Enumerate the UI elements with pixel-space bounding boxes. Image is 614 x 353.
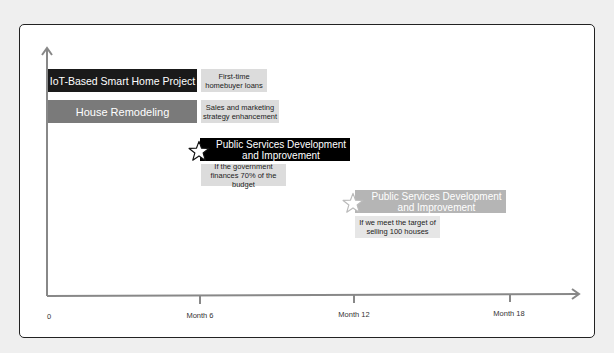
tick-label-month-18: Month 18 — [493, 309, 524, 318]
star-icon — [188, 140, 210, 162]
note-selling-100-houses: If we meet the target of selling 100 hou… — [355, 216, 440, 238]
note-sales-marketing: Sales and marketing strategy enhancement — [201, 100, 279, 123]
tick-month-18 — [509, 294, 511, 302]
bar-iot-smart-home: IoT-Based Smart Home Project — [48, 69, 197, 92]
bar-house-remodeling: House Remodeling — [48, 100, 197, 123]
tick-label-month-6: Month 6 — [186, 311, 213, 320]
milestone-public-services-month-12: Public Services Development and Improvem… — [355, 190, 506, 213]
milestone-public-services-month-6: Public Services Development and Improvem… — [200, 138, 350, 161]
timeline-axes — [0, 0, 614, 353]
milestone-label: Public Services Development and Improvem… — [367, 191, 506, 213]
note-homebuyer-loans: First-time homebuyer loans — [201, 69, 267, 92]
tick-month-12 — [353, 295, 355, 303]
bar-label: House Remodeling — [76, 106, 170, 118]
milestone-label: Public Services Development and Improvem… — [212, 139, 350, 161]
tick-label-month-12: Month 12 — [338, 310, 369, 319]
note-government-finances: If the government finances 70% of the bu… — [201, 164, 286, 186]
bar-label: IoT-Based Smart Home Project — [50, 75, 195, 87]
star-icon — [342, 192, 364, 214]
tick-month-6 — [199, 296, 201, 304]
origin-label: 0 — [47, 312, 51, 321]
